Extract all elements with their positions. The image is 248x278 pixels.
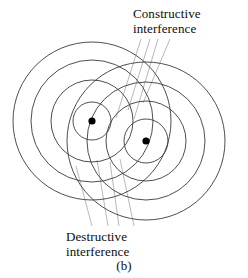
- constructive-interference-label: Constructive interference: [133, 6, 201, 36]
- destructive-label-line-2: interference: [66, 244, 129, 259]
- constructive-label-line-1: Constructive: [133, 6, 201, 21]
- wave-interference-figure: Constructive interference Destructive in…: [0, 0, 248, 278]
- destructive-leader-line: [110, 162, 119, 226]
- destructive-interference-label: Destructive interference: [66, 229, 129, 259]
- destructive-leader-line: [97, 160, 108, 226]
- destructive-label-line-1: Destructive: [66, 229, 129, 244]
- panel-caption: (b): [0, 258, 248, 273]
- constructive-label-line-2: interference: [133, 21, 201, 36]
- left-source-dot: [88, 117, 95, 124]
- right-source-dot: [142, 137, 149, 144]
